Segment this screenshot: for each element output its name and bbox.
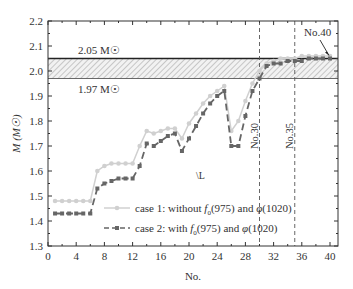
data-point xyxy=(124,177,128,181)
data-point xyxy=(60,199,65,204)
data-point xyxy=(67,199,72,204)
y-tick-label: 1.8 xyxy=(29,115,43,127)
data-point xyxy=(222,89,226,93)
data-point xyxy=(131,177,135,181)
data-point xyxy=(166,134,170,138)
vline-label-no30: No.30 xyxy=(249,123,260,149)
annotation-no40: No.40 xyxy=(304,26,332,38)
data-point xyxy=(250,89,254,93)
data-point xyxy=(60,212,64,216)
x-tick-label: 28 xyxy=(240,250,252,262)
data-point xyxy=(173,126,178,131)
legend-label: case 2: with f0(975) and φ(1020) xyxy=(135,222,278,237)
data-point xyxy=(278,56,283,61)
data-point xyxy=(95,169,100,174)
data-point xyxy=(208,94,213,99)
data-point xyxy=(201,101,206,106)
legend: case 1: without f0(975) and φ(1020)case … xyxy=(104,202,292,237)
data-point xyxy=(166,126,171,131)
mass-chart: No.30No.35 04812162024283236401.31.41.51… xyxy=(0,0,353,289)
data-point xyxy=(81,199,86,204)
y-tick-label: 1.4 xyxy=(29,215,43,227)
data-point xyxy=(187,137,191,141)
data-point xyxy=(102,164,107,169)
data-point xyxy=(300,59,304,63)
y-tick-label: 2.1 xyxy=(29,40,43,52)
data-point xyxy=(116,161,121,166)
data-point xyxy=(173,132,177,136)
data-point xyxy=(138,164,142,168)
data-point xyxy=(243,114,247,118)
data-point xyxy=(258,77,262,81)
data-point xyxy=(53,212,57,216)
data-point xyxy=(279,62,283,66)
x-tick-label: 32 xyxy=(268,250,279,262)
data-point xyxy=(151,131,156,136)
x-tick-label: 8 xyxy=(102,250,108,262)
data-point xyxy=(180,149,184,153)
x-tick-label: 36 xyxy=(296,250,308,262)
x-tick-label: 16 xyxy=(155,250,167,262)
data-point xyxy=(159,129,164,134)
y-tick-label: 2.2 xyxy=(29,15,43,27)
data-point xyxy=(187,121,192,126)
data-point xyxy=(314,57,318,61)
data-point xyxy=(67,212,71,216)
y-tick-label: 1.9 xyxy=(29,90,43,102)
vline-label-no35: No.35 xyxy=(284,123,295,149)
arrow-head-icon xyxy=(325,52,329,56)
data-point xyxy=(152,144,156,148)
data-point xyxy=(130,161,135,166)
annotation-mark: \L xyxy=(196,170,205,181)
data-point xyxy=(102,182,106,186)
y-axis-label: M (M☉) xyxy=(10,114,23,154)
data-point xyxy=(215,94,219,98)
legend-label: case 1: without f0(975) and φ(1020) xyxy=(135,202,292,217)
legend-entry-case-2: case 2: with f0(975) and φ(1020) xyxy=(104,222,278,237)
x-tick-label: 12 xyxy=(127,250,138,262)
data-point xyxy=(88,212,92,216)
legend-entry-case-1: case 1: without f0(975) and φ(1020) xyxy=(104,202,292,217)
data-point xyxy=(53,199,58,204)
chart-svg: No.30No.35 04812162024283236401.31.41.51… xyxy=(0,0,353,289)
data-point xyxy=(144,129,149,134)
data-point xyxy=(236,144,240,148)
x-tick-label: 40 xyxy=(325,250,337,262)
data-point xyxy=(272,62,276,66)
y-tick-label: 2.0 xyxy=(29,65,43,77)
data-point xyxy=(194,111,199,116)
data-point xyxy=(300,54,305,59)
data-point xyxy=(88,199,93,204)
y-tick-label: 1.6 xyxy=(29,165,43,177)
x-axis-label: No. xyxy=(185,270,201,282)
data-point xyxy=(137,144,142,149)
data-point xyxy=(109,179,113,183)
data-point xyxy=(286,59,290,63)
y-tick-label: 1.7 xyxy=(29,140,43,152)
lower-bound-label: 1.97 M☉ xyxy=(78,83,120,95)
legend-marker xyxy=(115,226,119,230)
data-point xyxy=(257,69,262,74)
data-point xyxy=(180,136,185,141)
data-point xyxy=(250,81,255,86)
data-point xyxy=(74,212,78,216)
data-point xyxy=(194,124,198,128)
data-point xyxy=(95,187,99,191)
data-point xyxy=(123,161,128,166)
data-point xyxy=(222,84,227,89)
data-point xyxy=(265,64,269,68)
x-tick-label: 4 xyxy=(73,250,79,262)
data-point xyxy=(145,142,149,146)
data-point xyxy=(159,139,163,143)
data-point xyxy=(201,112,205,116)
data-point xyxy=(236,119,241,124)
x-tick-label: 24 xyxy=(212,250,224,262)
data-point xyxy=(109,161,114,166)
data-point xyxy=(74,199,79,204)
data-point xyxy=(307,57,311,61)
x-tick-label: 20 xyxy=(184,250,196,262)
data-point xyxy=(215,89,220,94)
data-point xyxy=(293,59,297,63)
data-point xyxy=(208,102,212,106)
y-tick-label: 1.3 xyxy=(29,240,43,252)
